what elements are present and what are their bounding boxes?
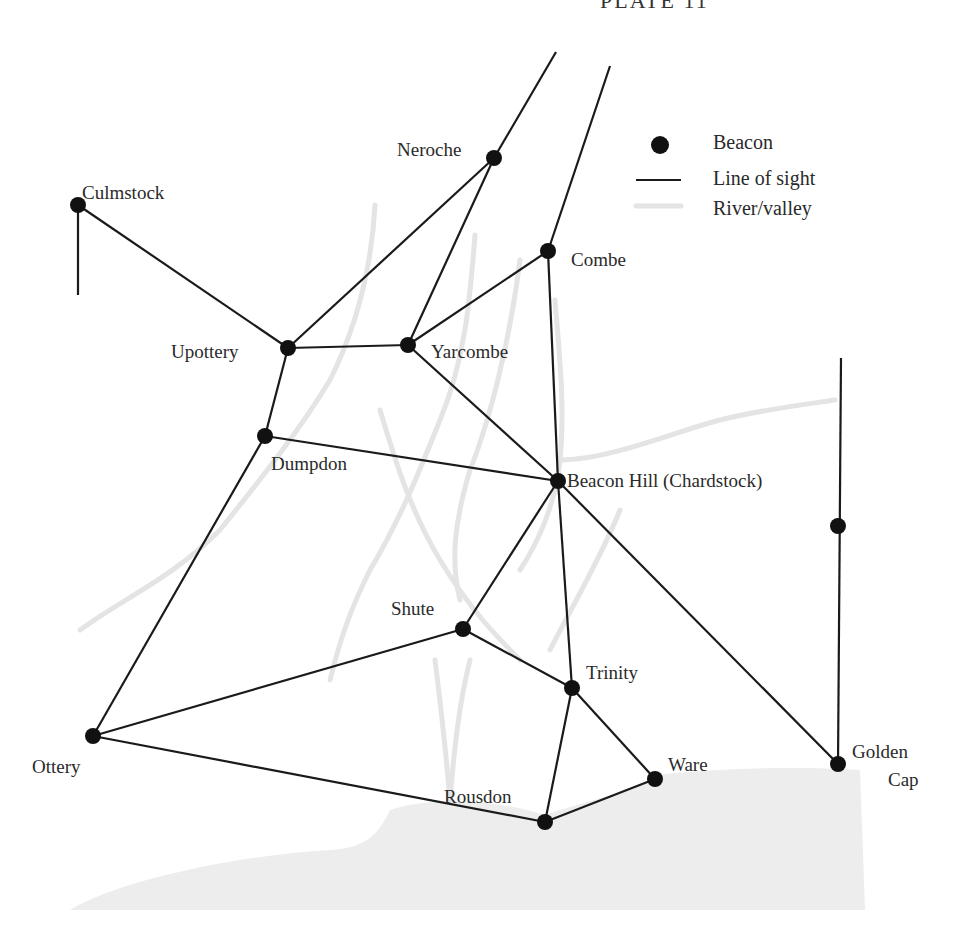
label-rousdon: Rousdon	[444, 787, 512, 806]
label-shute: Shute	[391, 599, 434, 618]
rivers	[80, 205, 835, 800]
beacon-upottery	[280, 340, 296, 356]
legend-beacon-label: Beacon	[713, 131, 773, 154]
label-dumpdon: Dumpdon	[271, 454, 347, 473]
beacon-yarcombe	[400, 337, 416, 353]
label-beacon-hill: Beacon Hill (Chardstock)	[567, 471, 762, 490]
label-neroche: Neroche	[397, 140, 461, 159]
beacon-shute	[455, 621, 471, 637]
label-golden-cap-line2: Cap	[888, 770, 919, 789]
beacon-neroche	[486, 150, 502, 166]
beacon-unnamed-east	[830, 518, 846, 534]
label-ware: Ware	[668, 755, 708, 774]
legend-river-label: River/valley	[713, 197, 812, 220]
label-trinity: Trinity	[586, 663, 638, 682]
legend-symbols	[636, 136, 681, 206]
label-golden-cap-line1: Golden	[852, 742, 908, 761]
label-combe: Combe	[571, 250, 626, 269]
beacon-ottery	[85, 728, 101, 744]
beacon-dumpdon	[257, 428, 273, 444]
beacon-trinity	[564, 680, 580, 696]
beacon-network-diagram	[0, 0, 972, 951]
beacon-beacon-hill	[550, 473, 566, 489]
beacon-rousdon	[537, 814, 553, 830]
beacon-golden-cap	[830, 756, 846, 772]
label-yarcombe: Yarcombe	[431, 342, 508, 361]
legend-beacon-icon	[651, 136, 669, 154]
label-culmstock: Culmstock	[82, 183, 164, 202]
beacon-combe	[540, 243, 556, 259]
legend-line-label: Line of sight	[713, 167, 815, 190]
label-upottery: Upottery	[171, 342, 239, 361]
beacon-ware	[647, 771, 663, 787]
label-ottery: Ottery	[32, 757, 81, 776]
